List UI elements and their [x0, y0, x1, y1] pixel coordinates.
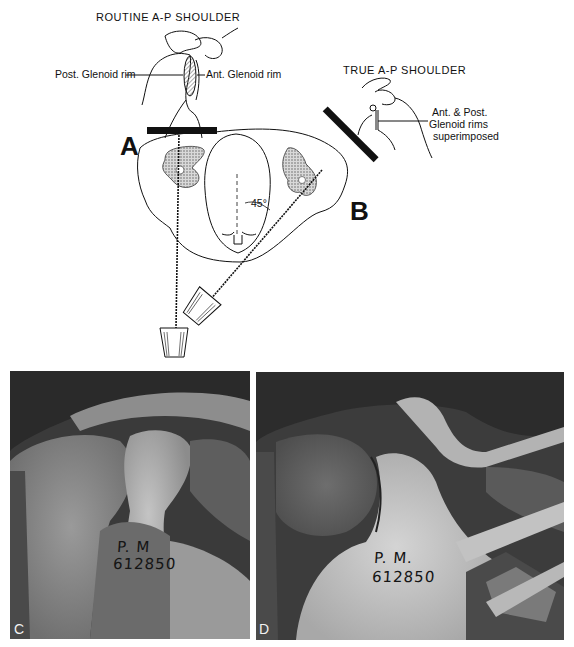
angle-label: 45° [251, 197, 267, 209]
superimposed-label-line2: Glenoid rims [429, 118, 488, 130]
panel-d-annotation-line1: P. M. [373, 550, 413, 567]
true-ap-shoulder-title: TRUE A-P SHOULDER [343, 64, 466, 76]
routine-ap-shoulder-sketch [126, 28, 238, 138]
true-ap-shoulder-sketch [358, 78, 432, 158]
right-scapula-shape [283, 148, 317, 196]
post-glenoid-rim-label: Post. Glenoid rim [55, 68, 136, 80]
superimposed-label-line3: superimposed [433, 130, 499, 142]
radiograph-c: C P. M 612850 [10, 371, 250, 639]
panel-c-annotation-line2: 612850 [112, 556, 176, 573]
film-plate-b [323, 106, 379, 162]
panel-d-label: D [259, 621, 269, 637]
position-a-label: A [120, 131, 139, 162]
film-plate-a [147, 127, 217, 134]
radiograph-d: D P. M. 612850 [256, 372, 564, 640]
xray-tube-b [180, 287, 221, 328]
position-b-label: B [350, 196, 369, 227]
positioning-diagram [0, 0, 574, 365]
xray-tube-a [160, 328, 188, 357]
panel-c-annotation-line1: P. M [116, 539, 150, 556]
left-scapula-shape [163, 146, 205, 187]
panel-d-annotation-line2: 612850 [371, 569, 435, 586]
superimposed-label-line1: Ant. & Post. [432, 106, 487, 118]
cross-section-outline [138, 129, 348, 262]
routine-ap-shoulder-title: ROUTINE A-P SHOULDER [96, 11, 240, 23]
ant-glenoid-rim-label: Ant. Glenoid rim [206, 68, 281, 80]
panel-c-label: C [14, 621, 24, 637]
